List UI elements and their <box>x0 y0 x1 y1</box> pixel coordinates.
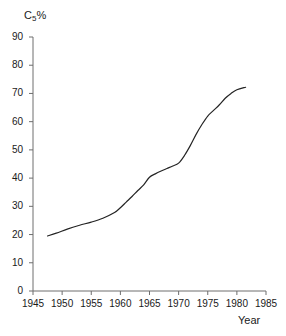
x-axis-tick-label: 1960 <box>105 299 135 309</box>
data-series-line <box>48 87 246 236</box>
y-axis-tick-label: 20 <box>3 230 23 240</box>
y-axis-tick-label: 40 <box>3 173 23 183</box>
x-axis-tick-label: 1950 <box>47 299 77 309</box>
axis-lines <box>33 37 266 291</box>
y-axis-tick-label: 50 <box>3 145 23 155</box>
y-axis-ticks <box>29 37 33 291</box>
line-chart: C5% Year 0102030405060708090 19451950195… <box>0 0 286 336</box>
y-axis-tick-label: 0 <box>3 286 23 296</box>
x-axis-tick-label: 1955 <box>76 299 106 309</box>
x-axis-tick-label: 1965 <box>135 299 165 309</box>
y-axis-tick-label: 80 <box>3 60 23 70</box>
y-axis-tick-label: 90 <box>3 32 23 42</box>
y-axis-tick-label: 10 <box>3 258 23 268</box>
x-axis-tick-label: 1975 <box>193 299 223 309</box>
y-axis-tick-label: 30 <box>3 201 23 211</box>
x-axis-tick-label: 1945 <box>18 299 48 309</box>
y-axis-tick-label: 70 <box>3 88 23 98</box>
plot-area <box>0 0 286 336</box>
x-axis-tick-label: 1980 <box>222 299 252 309</box>
x-axis-tick-label: 1985 <box>251 299 281 309</box>
y-axis-tick-label: 60 <box>3 117 23 127</box>
x-axis-tick-label: 1970 <box>164 299 194 309</box>
x-axis-ticks <box>33 291 266 295</box>
